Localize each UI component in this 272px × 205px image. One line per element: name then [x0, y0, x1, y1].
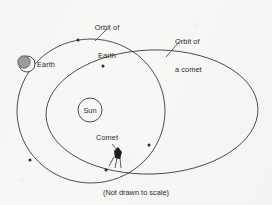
label-orbit-of-a-comet-line2: a comet — [175, 65, 235, 74]
label-orbit-of-a-comet: Orbit of a comet — [175, 19, 235, 93]
comet-tail-streak-3 — [109, 157, 114, 166]
label-orbit-of-earth-line2: Earth — [78, 51, 136, 60]
comet-head — [114, 147, 122, 159]
sun-label: Sun — [83, 106, 96, 115]
comet-tail-streak-2 — [120, 158, 121, 168]
orbit-marker-earth-bottom — [29, 159, 32, 162]
not-drawn-to-scale-caption: (Not drawn to scale) — [0, 188, 272, 197]
label-comet: Comet — [96, 133, 118, 142]
orbit-marker-comet-lower — [105, 169, 108, 172]
comet-tail-streak-1 — [115, 158, 117, 168]
label-orbit-of-earth: Orbit of Earth — [78, 5, 136, 79]
label-orbit-of-a-comet-line1: Orbit of — [175, 37, 235, 46]
label-earth: Earth — [37, 60, 55, 69]
earth-shaded-disc — [18, 56, 30, 68]
orbit-marker-earth-right — [148, 144, 151, 147]
label-orbit-of-earth-line1: Orbit of — [78, 23, 136, 32]
orbit-diagram-figure: Sun Orbit of Earth Orbit of a comet Eart… — [0, 0, 272, 205]
